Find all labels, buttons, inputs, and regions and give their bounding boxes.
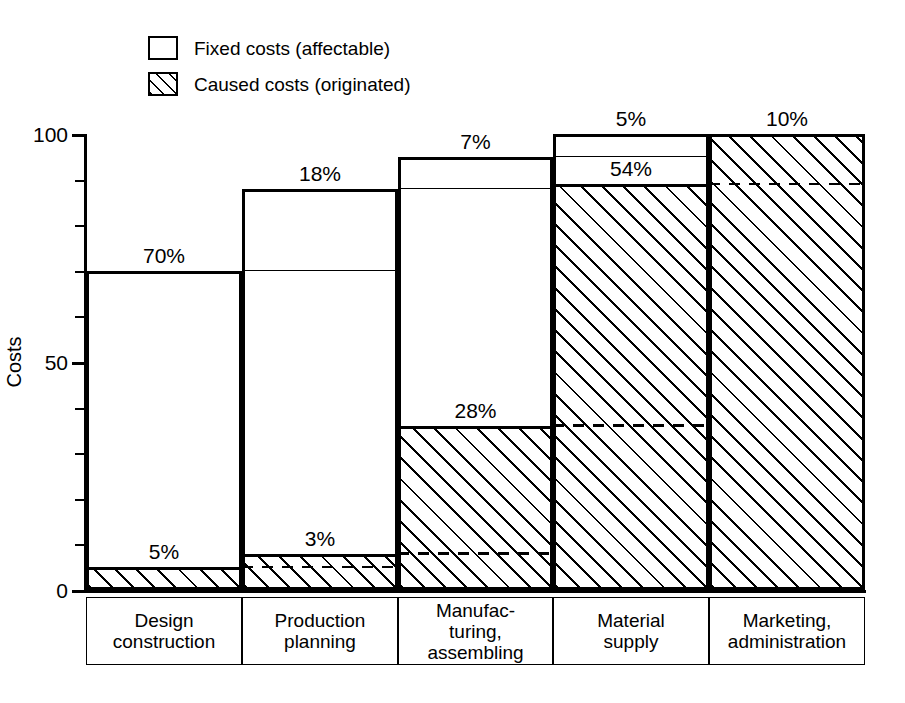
- bar-fixed-value-label: 18%: [242, 163, 398, 184]
- category-label-line-3: assembling: [427, 642, 523, 663]
- bar-caused-segment[interactable]: [86, 567, 242, 590]
- legend-label-caused: Caused costs (originated): [194, 75, 411, 94]
- category-label-text: Productionplanning: [275, 610, 366, 652]
- bar-fixed-value-label: 5%: [553, 108, 709, 129]
- category-label-line-1: Material: [597, 610, 665, 631]
- y-tick-label-50: 50: [45, 352, 68, 373]
- bar-caused-value-label: 3%: [242, 528, 398, 549]
- legend-swatch-fixed-icon: [148, 36, 178, 60]
- previous-caused-reference-line: [398, 552, 553, 555]
- bar-fixed-value-label: 7%: [398, 131, 553, 152]
- bar-caused-segment[interactable]: [709, 134, 865, 590]
- bar-group[interactable]: 18%3%: [242, 134, 398, 590]
- category-label-line-2: supply: [597, 631, 665, 652]
- bar-caused-value-label: 54%: [553, 158, 709, 179]
- bar-group[interactable]: 70%5%: [86, 134, 242, 590]
- legend-swatch-caused-icon: [148, 72, 178, 96]
- category-label-cell[interactable]: Manufac-turing,assembling: [398, 597, 553, 665]
- category-label-text: Manufac-turing,assembling: [427, 600, 523, 663]
- bar-caused-segment[interactable]: [398, 426, 553, 590]
- category-label-line-2: administration: [728, 631, 846, 652]
- y-axis-title: Costs: [4, 336, 24, 387]
- y-tick-50: [72, 362, 85, 365]
- bar-caused-segment[interactable]: [242, 554, 398, 590]
- previous-total-reference-line: [242, 270, 398, 271]
- x-axis-line: [84, 590, 866, 593]
- category-label-text: Marketing,administration: [728, 610, 846, 652]
- bar-fixed-value-label: 70%: [86, 245, 242, 266]
- category-label-line-1: Production: [275, 610, 366, 631]
- bar-group[interactable]: 7%28%: [398, 134, 553, 590]
- category-label-cell[interactable]: Marketing,administration: [709, 597, 865, 665]
- category-label-cell[interactable]: Materialsupply: [553, 597, 709, 665]
- plot-area: Costs 050100 70%5%18%3%7%28%5%54%10%: [86, 134, 865, 590]
- previous-caused-reference-line: [553, 424, 709, 427]
- y-tick-100: [72, 134, 85, 137]
- category-label-cell[interactable]: Productionplanning: [242, 597, 398, 665]
- category-axis-strip: DesignconstructionProductionplanningManu…: [86, 597, 865, 665]
- y-tick-60: [75, 316, 85, 318]
- y-tick-label-100: 100: [33, 124, 68, 145]
- chart-legend: Fixed costs (affectable) Caused costs (o…: [148, 33, 411, 105]
- bar-fixed-value-label: 10%: [709, 108, 865, 129]
- category-label-line-2: construction: [113, 631, 215, 652]
- y-tick-80: [75, 225, 85, 227]
- y-tick-30: [75, 453, 85, 455]
- bar-group[interactable]: 5%54%: [553, 134, 709, 590]
- category-label-text: Materialsupply: [597, 610, 665, 652]
- category-label-line-1: Manufac-: [427, 600, 523, 621]
- category-label-text: Designconstruction: [113, 610, 215, 652]
- category-label-line-1: Design: [113, 610, 215, 631]
- category-label-cell[interactable]: Designconstruction: [86, 597, 242, 665]
- previous-caused-reference-line: [242, 566, 398, 569]
- bar-caused-value-label: 28%: [398, 400, 553, 421]
- category-label-line-2: planning: [275, 631, 366, 652]
- y-tick-20: [75, 499, 85, 501]
- chart-root: Fixed costs (affectable) Caused costs (o…: [0, 0, 905, 703]
- y-tick-0: [72, 590, 85, 593]
- y-tick-label-0: 0: [56, 580, 68, 601]
- legend-label-fixed: Fixed costs (affectable): [194, 39, 390, 58]
- legend-item-fixed: Fixed costs (affectable): [148, 33, 411, 63]
- y-tick-40: [75, 408, 85, 410]
- y-tick-70: [75, 271, 85, 273]
- previous-caused-reference-line: [709, 183, 865, 186]
- y-tick-90: [75, 180, 85, 182]
- y-tick-10: [75, 544, 85, 546]
- bar-group[interactable]: 10%: [709, 134, 865, 590]
- category-label-line-2: turing,: [427, 621, 523, 642]
- bar-caused-segment[interactable]: [553, 184, 709, 590]
- legend-item-caused: Caused costs (originated): [148, 69, 411, 99]
- category-label-line-1: Marketing,: [728, 610, 846, 631]
- bar-caused-value-label: 5%: [86, 541, 242, 562]
- previous-total-reference-line: [398, 188, 553, 189]
